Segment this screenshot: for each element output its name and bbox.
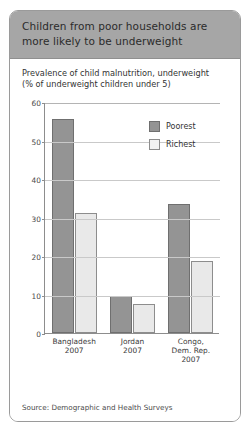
x-category-line: Congo, — [172, 337, 211, 346]
chart-card: Children from poor households are more l… — [9, 10, 241, 422]
gridline-20 — [45, 257, 220, 258]
legend-item-poorest: Poorest — [149, 121, 196, 132]
x-category-label: Congo,Dem. Rep.2007 — [172, 337, 211, 364]
gridline-10 — [45, 296, 220, 297]
legend-label-richest: Richest — [166, 140, 195, 149]
card-title: Children from poor households are more l… — [22, 19, 228, 49]
x-category-line: 2007 — [52, 346, 95, 355]
y-tick-label-10: 10 — [32, 291, 41, 300]
plot-area: Bangladesh2007Jordan2007Congo,Dem. Rep.2… — [10, 59, 240, 421]
bar-richest[interactable] — [191, 261, 213, 333]
y-tick-mark-40 — [42, 180, 45, 181]
legend-item-richest: Richest — [149, 139, 196, 150]
bar-poorest[interactable] — [168, 204, 190, 333]
chart-source: Source: Demographic and Health Surveys — [22, 403, 172, 412]
chart-legend: Poorest Richest — [149, 121, 196, 157]
card-body: Prevalence of child malnutrition, underw… — [10, 59, 240, 421]
y-tick-mark-10 — [42, 296, 45, 297]
y-tick-label-0: 0 — [36, 330, 41, 339]
x-category-line: 2007 — [121, 346, 145, 355]
x-category-line: 2007 — [172, 355, 211, 364]
y-tick-label-30: 30 — [32, 214, 41, 223]
x-category-line: Dem. Rep. — [172, 346, 211, 355]
legend-swatch-richest — [149, 139, 160, 150]
x-category-label: Bangladesh2007 — [52, 337, 95, 355]
y-tick-label-50: 50 — [32, 137, 41, 146]
y-tick-label-20: 20 — [32, 253, 41, 262]
y-tick-mark-30 — [42, 219, 45, 220]
y-tick-mark-50 — [42, 142, 45, 143]
card-header: Children from poor households are more l… — [10, 11, 240, 59]
gridline-60 — [45, 103, 220, 104]
gridline-40 — [45, 180, 220, 181]
y-tick-label-60: 60 — [32, 99, 41, 108]
gridline-30 — [45, 219, 220, 220]
x-category-label: Jordan2007 — [121, 337, 145, 355]
bar-group: Bangladesh2007 — [45, 102, 103, 333]
bar-poorest[interactable] — [110, 296, 132, 333]
y-tick-label-40: 40 — [32, 176, 41, 185]
legend-label-poorest: Poorest — [166, 122, 196, 131]
y-tick-mark-20 — [42, 257, 45, 258]
bar-richest[interactable] — [133, 304, 155, 333]
legend-swatch-poorest — [149, 121, 160, 132]
y-tick-mark-60 — [42, 103, 45, 104]
x-category-line: Bangladesh — [52, 337, 95, 346]
y-tick-mark-0 — [42, 334, 45, 335]
x-category-line: Jordan — [121, 337, 145, 346]
bar-poorest[interactable] — [52, 119, 74, 333]
bar-richest[interactable] — [75, 213, 97, 334]
